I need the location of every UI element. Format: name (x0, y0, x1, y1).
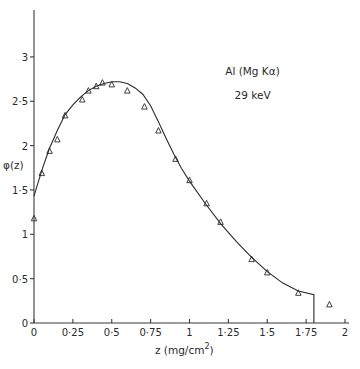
y-tick-label: 1·5 (12, 185, 28, 196)
phi-z-chart: 00·511·522·53 00·250·50·7511·251·51·752 … (0, 0, 360, 369)
x-tick-label: 0·75 (139, 327, 161, 338)
triangle-marker-icon (55, 136, 61, 142)
x-tick-label: 0 (31, 327, 37, 338)
y-tick-label: 3 (22, 52, 28, 63)
x-tick-label: 0·25 (62, 327, 84, 338)
x-tick-label: 0·5 (104, 327, 120, 338)
annotation-text: Al (Mg Kα) (225, 65, 280, 77)
x-axis: 00·250·50·7511·251·51·752 (31, 319, 349, 338)
triangle-marker-icon (156, 128, 162, 134)
x-tick-label: 2 (342, 327, 348, 338)
annotations: Al (Mg Kα)29 keV (225, 65, 280, 101)
x-tick-label: 1 (186, 327, 192, 338)
y-axis-label: φ(z) (3, 159, 24, 171)
x-axis-label: z (mg/cm2) (155, 342, 214, 356)
x-axis-label-main: z (mg/cm (155, 344, 204, 356)
x-tick-label: 1·75 (295, 327, 317, 338)
y-ticks: 00·511·522·53 (12, 52, 34, 329)
triangle-marker-icon (142, 104, 148, 110)
plot-area (31, 80, 332, 323)
x-tick-label: 1·25 (217, 327, 239, 338)
calculated-curve (34, 82, 314, 323)
x-axis-label-close: ) (209, 344, 213, 356)
y-tick-label: 2·5 (12, 96, 28, 107)
y-tick-label: 1 (22, 229, 28, 240)
triangle-marker-icon (39, 170, 45, 176)
x-ticks: 00·250·50·7511·251·51·752 (31, 319, 348, 338)
triangle-marker-icon (47, 148, 53, 154)
annotation-text: 29 keV (235, 89, 272, 101)
x-tick-label: 1·5 (259, 327, 275, 338)
y-tick-label: 2 (22, 141, 28, 152)
triangle-marker-icon (327, 301, 333, 307)
y-tick-label: 0 (22, 318, 28, 329)
y-tick-label: 0·5 (12, 274, 28, 285)
triangle-marker-icon (173, 156, 179, 162)
triangle-marker-icon (125, 88, 131, 94)
